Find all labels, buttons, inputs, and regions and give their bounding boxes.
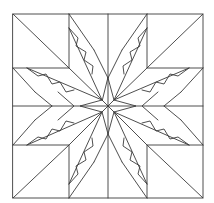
feathered-star-svg <box>0 0 214 203</box>
